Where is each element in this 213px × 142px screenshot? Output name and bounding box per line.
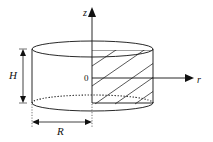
cylinder-diagram: z r 0 H R: [0, 0, 213, 142]
height-arrow-bottom-icon: [20, 96, 26, 103]
z-axis-arrowhead-icon: [88, 7, 96, 17]
radius-arrow-left-icon: [32, 119, 39, 125]
origin-label: 0: [84, 73, 89, 83]
r-axis-arrowhead-icon: [185, 74, 194, 82]
radius-label: R: [56, 125, 64, 137]
z-axis-label: z: [82, 7, 87, 18]
cylinder-bottom-front: [32, 103, 153, 111]
r-axis-label: r: [197, 74, 201, 85]
cylinder-bottom-back-dotted: [32, 95, 153, 103]
radius-arrow-right-icon: [85, 119, 92, 125]
cylinder-top-ellipse: [32, 41, 153, 57]
height-label: H: [8, 69, 18, 81]
height-arrow-top-icon: [20, 49, 26, 56]
hatched-cross-section: [92, 46, 158, 104]
